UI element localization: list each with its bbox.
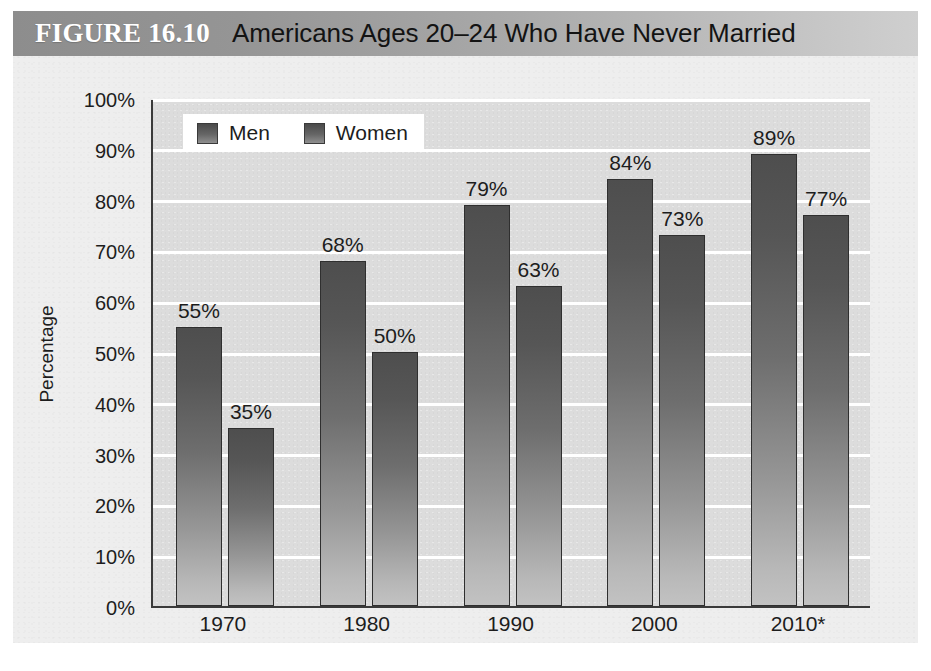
- bar-women-2000: [659, 235, 705, 606]
- bar-value-label: 89%: [753, 126, 795, 150]
- bar-men-2010: [751, 154, 797, 606]
- y-axis-tick-label: 90%: [95, 139, 135, 162]
- y-axis-title: Percentage: [36, 274, 58, 434]
- x-axis-tick-label: 2010*: [771, 612, 826, 636]
- y-axis-tick-label: 20%: [95, 495, 135, 518]
- plot-area: 55%35%68%50%79%63%84%73%89%77% Men Women: [151, 100, 870, 608]
- y-axis-tick-label: 60%: [95, 292, 135, 315]
- legend-label-women: Women: [336, 121, 408, 145]
- legend-item-women: Women: [304, 121, 408, 145]
- legend: Men Women: [183, 114, 424, 152]
- legend-swatch-icon: [304, 123, 325, 144]
- bar-value-label: 73%: [661, 207, 703, 231]
- bar-men-1980: [320, 261, 366, 606]
- legend-swatch-icon: [197, 123, 218, 144]
- y-axis-tick-label: 10%: [95, 546, 135, 569]
- y-axis-tick-label: 70%: [95, 241, 135, 264]
- bar-women-1980: [372, 352, 418, 606]
- bar-women-1970: [228, 428, 274, 606]
- bar-value-label: 35%: [230, 400, 272, 424]
- legend-label-men: Men: [229, 121, 270, 145]
- bar-value-label: 79%: [465, 177, 507, 201]
- figure-container: FIGURE 16.10 Americans Ages 20–24 Who Ha…: [0, 0, 931, 671]
- y-axis-tick-label: 100%: [84, 89, 135, 112]
- x-axis-tick-label: 1970: [200, 612, 247, 636]
- bar-value-label: 50%: [374, 324, 416, 348]
- figure-number: FIGURE 16.10: [35, 18, 210, 49]
- bar-women-1990: [516, 286, 562, 606]
- bar-value-label: 63%: [517, 258, 559, 282]
- y-axis-tick-label: 50%: [95, 343, 135, 366]
- x-axis-tick-label: 1980: [343, 612, 390, 636]
- bar-men-2000: [607, 179, 653, 606]
- bar-value-label: 77%: [805, 187, 847, 211]
- bar-value-label: 68%: [322, 233, 364, 257]
- bar-value-label: 55%: [178, 299, 220, 323]
- y-axis-tick-label: 40%: [95, 393, 135, 416]
- x-axis-tick-label: 2000: [631, 612, 678, 636]
- y-axis-tick-label: 80%: [95, 190, 135, 213]
- figure-title: Americans Ages 20–24 Who Have Never Marr…: [232, 18, 796, 49]
- x-axis: 19701980199020002010*: [151, 612, 870, 646]
- bar-men-1970: [176, 327, 222, 606]
- y-axis-tick-label: 0%: [106, 597, 135, 620]
- bar-series-group: 55%35%68%50%79%63%84%73%89%77%: [153, 100, 870, 606]
- bar-men-1990: [464, 205, 510, 606]
- chart: Percentage 100%90%80%70%60%50%40%30%20%1…: [13, 56, 918, 643]
- figure-title-bar: FIGURE 16.10 Americans Ages 20–24 Who Ha…: [13, 11, 918, 56]
- y-axis: Percentage 100%90%80%70%60%50%40%30%20%1…: [13, 100, 145, 608]
- bar-women-2010: [803, 215, 849, 606]
- y-axis-tick-label: 30%: [95, 444, 135, 467]
- legend-item-men: Men: [197, 121, 270, 145]
- bar-value-label: 84%: [609, 151, 651, 175]
- x-axis-tick-label: 1990: [487, 612, 534, 636]
